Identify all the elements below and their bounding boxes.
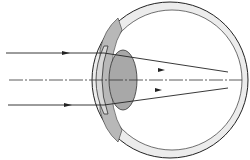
eye-illustration (0, 0, 250, 160)
eye-diagram (0, 0, 250, 160)
arrow-icon (62, 51, 70, 55)
arrow-icon (64, 103, 72, 107)
